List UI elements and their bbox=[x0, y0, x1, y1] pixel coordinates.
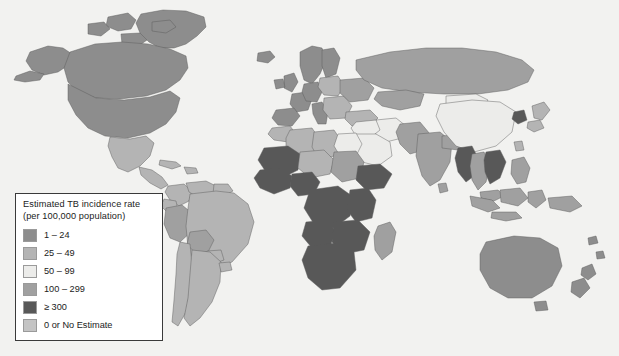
legend-swatch-icon-2 bbox=[23, 247, 37, 260]
legend-item-5: ≥ 300 bbox=[23, 298, 155, 316]
legend-label-5: ≥ 300 bbox=[44, 302, 67, 312]
legend-item-2: 25 – 49 bbox=[23, 244, 155, 262]
legend-swatch-icon-3 bbox=[23, 265, 37, 278]
legend-label-1: 1 – 24 bbox=[44, 230, 70, 240]
legend-item-4: 100 – 299 bbox=[23, 280, 155, 298]
country-sri-lanka bbox=[438, 183, 448, 193]
legend-swatch-icon-5 bbox=[23, 301, 37, 314]
legend-item-6: 0 or No Estimate bbox=[23, 316, 155, 334]
legend-swatch-icon-4 bbox=[23, 283, 37, 296]
country-ireland bbox=[274, 79, 285, 89]
legend-item-3: 50 – 99 bbox=[23, 262, 155, 280]
legend-swatch-icon-1 bbox=[23, 229, 37, 242]
legend-title-line1: Estimated TB incidence rate bbox=[23, 199, 155, 211]
legend-label-6: 0 or No Estimate bbox=[44, 320, 112, 330]
legend-title-line2: (per 100,000 population) bbox=[23, 211, 155, 223]
country-uruguay bbox=[219, 262, 232, 272]
legend-swatch-icon-6 bbox=[23, 319, 37, 332]
map-legend: Estimated TB incidence rate (per 100,000… bbox=[15, 193, 163, 341]
legend-label-3: 50 – 99 bbox=[44, 266, 75, 276]
country-taiwan bbox=[514, 141, 524, 151]
legend-item-1: 1 – 24 bbox=[23, 226, 155, 244]
legend-items: 1 – 24 25 – 49 50 – 99 100 – 299 ≥ 300 0… bbox=[23, 226, 155, 334]
legend-label-4: 100 – 299 bbox=[44, 284, 85, 294]
country-tasmania bbox=[534, 301, 548, 311]
tb-incidence-world-map: Estimated TB incidence rate (per 100,000… bbox=[0, 0, 619, 356]
legend-label-2: 25 – 49 bbox=[44, 248, 75, 258]
